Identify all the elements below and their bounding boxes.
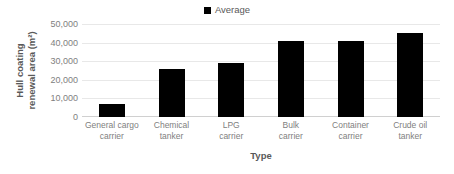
x-label-line2: tanker: [142, 131, 202, 142]
x-label-container-carrier: Container carrier: [321, 120, 381, 146]
bar-chart: Average Hull coating renewal area (m²) 5…: [0, 0, 454, 174]
bar-slot-general-cargo-carrier: [82, 24, 142, 117]
bar-series-average: [82, 24, 440, 117]
y-tick-0: 0: [73, 113, 78, 122]
y-axis-title-line1: Hull coating: [14, 31, 26, 109]
x-label-line1: Container: [321, 120, 381, 131]
x-label-line1: LPG: [201, 120, 261, 131]
x-label-line1: Chemical: [142, 120, 202, 131]
x-label-general-cargo-carrier: General cargo carrier: [82, 120, 142, 146]
legend-label-average: Average: [215, 5, 250, 15]
bar-chemical-tanker[interactable]: [159, 69, 185, 117]
bar-slot-chemical-tanker: [142, 24, 202, 117]
y-axis-title: Hull coating renewal area (m²): [2, 20, 48, 120]
x-label-chemical-tanker: Chemical tanker: [142, 120, 202, 146]
bar-slot-crude-oil-tanker: [380, 24, 440, 117]
y-tick-20000: 20,000: [50, 75, 78, 84]
legend-swatch-icon: [204, 7, 211, 14]
x-label-line2: carrier: [201, 131, 261, 142]
y-axis-tick-labels: 50,000 40,000 30,000 20,000 10,000 0: [46, 19, 80, 117]
y-tick-30000: 30,000: [50, 57, 78, 66]
x-label-crude-oil-tanker: Crude oil tanker: [380, 120, 440, 146]
plot-area: [82, 24, 440, 117]
x-axis-category-labels: General cargo carrier Chemical tanker LP…: [82, 120, 440, 146]
legend-entry-average: Average: [204, 5, 250, 15]
x-label-bulk-carrier: Bulk carrier: [261, 120, 321, 146]
x-label-line2: carrier: [321, 131, 381, 142]
bar-slot-lpg-carrier: [201, 24, 261, 117]
x-label-lpg-carrier: LPG carrier: [201, 120, 261, 146]
bar-container-carrier[interactable]: [338, 41, 364, 117]
bar-lpg-carrier[interactable]: [218, 63, 244, 117]
x-label-line1: General cargo: [82, 120, 142, 131]
bar-slot-container-carrier: [321, 24, 381, 117]
y-tick-40000: 40,000: [50, 38, 78, 47]
x-label-line1: Bulk: [261, 120, 321, 131]
bar-general-cargo-carrier[interactable]: [99, 104, 125, 117]
chart-legend: Average: [0, 2, 454, 18]
bar-bulk-carrier[interactable]: [278, 41, 304, 117]
bar-slot-bulk-carrier: [261, 24, 321, 117]
x-axis-title: Type: [82, 150, 440, 161]
y-axis-title-line2: renewal area (m²): [25, 31, 37, 109]
bar-crude-oil-tanker[interactable]: [397, 33, 423, 117]
x-label-line1: Crude oil: [380, 120, 440, 131]
y-tick-10000: 10,000: [50, 94, 78, 103]
y-tick-50000: 50,000: [50, 20, 78, 29]
x-label-line2: carrier: [82, 131, 142, 142]
x-label-line2: tanker: [380, 131, 440, 142]
x-label-line2: carrier: [261, 131, 321, 142]
